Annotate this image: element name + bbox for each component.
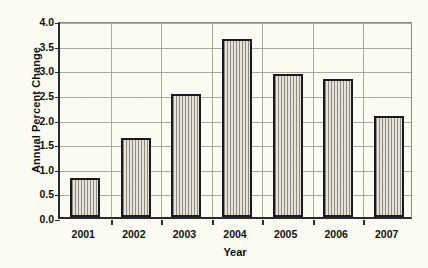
x-tick-label-2001: 2001 [72, 228, 95, 240]
x-tick-mark [161, 220, 163, 225]
x-tick-label-2004: 2004 [223, 228, 246, 240]
x-tick-label-2006: 2006 [324, 228, 347, 240]
x-tick-mark [363, 220, 365, 225]
y-tick-mark [55, 146, 60, 147]
x-tick-mark [212, 220, 214, 225]
y-tick-label: 3.5 [2, 41, 54, 53]
bar-2001 [70, 178, 100, 217]
x-gridline [161, 23, 162, 217]
x-tick-label-2002: 2002 [122, 228, 145, 240]
x-tick-label-2007: 2007 [375, 228, 398, 240]
y-tick-mark [55, 122, 60, 123]
x-axis-title: Year [58, 246, 412, 258]
x-gridline [363, 23, 364, 217]
bar-2005 [273, 74, 303, 217]
x-tick-label-2003: 2003 [173, 228, 196, 240]
x-tick-mark [313, 220, 315, 225]
y-tick-label: 0.5 [2, 188, 54, 200]
y-tick-label: 0.0 [2, 213, 54, 225]
x-gridline [212, 23, 213, 217]
y-tick-label: 1.5 [2, 139, 54, 151]
bar-2003 [171, 94, 201, 217]
y-tick-label: 2.5 [2, 90, 54, 102]
y-tick-mark [55, 220, 60, 221]
y-tick-label: 3.0 [2, 65, 54, 77]
chart-figure: Annual Percent Change Year 0.00.51.01.52… [0, 0, 428, 268]
y-tick-label: 4.0 [2, 16, 54, 28]
y-tick-mark [55, 195, 60, 196]
y-tick-label: 2.0 [2, 115, 54, 127]
plot-area [58, 22, 412, 219]
bar-2004 [222, 39, 252, 217]
y-tick-mark [55, 97, 60, 98]
y-tick-mark [55, 171, 60, 172]
x-tick-mark [111, 220, 113, 225]
x-tick-mark [262, 220, 264, 225]
y-tick-mark [55, 72, 60, 73]
bar-2006 [323, 79, 353, 217]
y-tick-label: 1.0 [2, 164, 54, 176]
x-gridline [262, 23, 263, 217]
y-gridline [60, 23, 411, 24]
x-gridline [313, 23, 314, 217]
bar-2007 [374, 116, 404, 217]
y-tick-mark [55, 23, 60, 24]
x-tick-label-2005: 2005 [274, 228, 297, 240]
x-gridline [111, 23, 112, 217]
y-tick-mark [55, 48, 60, 49]
bar-2002 [121, 138, 151, 217]
